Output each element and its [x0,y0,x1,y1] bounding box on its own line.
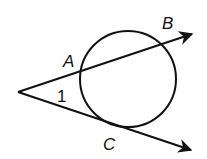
label-b: B [162,14,173,33]
secant-ray-ab [18,34,192,92]
label-c: C [103,135,116,154]
label-a: A [62,52,74,71]
circle [80,31,176,127]
angle-label-1: 1 [57,87,66,106]
geometry-figure: A B C 1 [0,0,207,159]
